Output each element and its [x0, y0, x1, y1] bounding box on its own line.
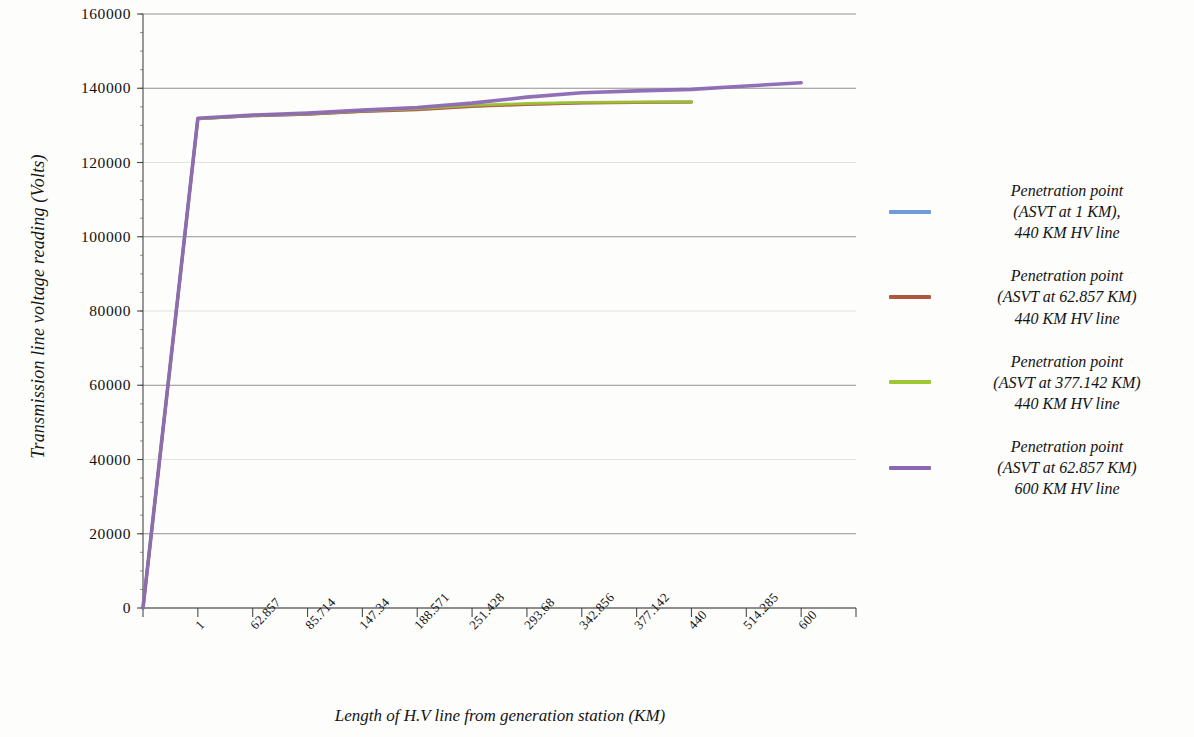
legend-label-line: Penetration point: [940, 180, 1194, 201]
legend-item[interactable]: Penetration point(ASVT at 1 KM),440 KM H…: [880, 180, 1194, 243]
legend-label-line: (ASVT at 1 KM),: [940, 201, 1194, 222]
y-tick-label: 80000: [41, 302, 131, 320]
y-tick-label: 120000: [41, 154, 131, 172]
legend-color-swatch: [889, 295, 931, 299]
series-line-2: [143, 102, 691, 608]
y-tick-label: 0: [41, 599, 131, 617]
series-line-3: [143, 83, 801, 608]
chart-page: Transmission line voltage reading (Volts…: [0, 0, 1194, 737]
legend-label: Penetration point(ASVT at 62.857 KM)440 …: [940, 265, 1194, 328]
y-tick-label: 20000: [41, 525, 131, 543]
legend-label-line: 600 KM HV line: [940, 478, 1194, 499]
legend-label-line: 440 KM HV line: [940, 222, 1194, 243]
legend-label: Penetration point(ASVT at 377.142 KM)440…: [940, 351, 1194, 414]
legend-item[interactable]: Penetration point(ASVT at 377.142 KM)440…: [880, 351, 1194, 414]
legend-label-line: (ASVT at 62.857 KM): [940, 286, 1194, 307]
legend-swatch-box: [880, 380, 940, 384]
legend-label-line: Penetration point: [940, 265, 1194, 286]
legend-swatch-box: [880, 295, 940, 299]
x-axis-title: Length of H.V line from generation stati…: [150, 706, 850, 726]
y-tick-label: 60000: [41, 376, 131, 394]
legend-label: Penetration point(ASVT at 1 KM),440 KM H…: [940, 180, 1194, 243]
legend-label-line: 440 KM HV line: [940, 393, 1194, 414]
y-tick-label: 140000: [41, 79, 131, 97]
series-line-1: [143, 102, 691, 608]
legend-swatch-box: [880, 210, 940, 214]
legend-swatch-box: [880, 466, 940, 470]
y-tick-label: 40000: [41, 451, 131, 469]
plot-area: 0200004000060000800001000001200001400001…: [0, 0, 900, 700]
legend-label: Penetration point(ASVT at 62.857 KM)600 …: [940, 436, 1194, 499]
legend-color-swatch: [889, 210, 931, 214]
legend-label-line: (ASVT at 377.142 KM): [940, 372, 1194, 393]
legend-label-line: Penetration point: [940, 351, 1194, 372]
y-tick-label: 160000: [41, 5, 131, 23]
legend-item[interactable]: Penetration point(ASVT at 62.857 KM)600 …: [880, 436, 1194, 499]
y-tick-label: 100000: [41, 228, 131, 246]
legend-color-swatch: [889, 380, 931, 384]
legend-color-swatch: [889, 466, 931, 470]
legend-label-line: (ASVT at 62.857 KM): [940, 457, 1194, 478]
chart-legend: Penetration point(ASVT at 1 KM),440 KM H…: [880, 180, 1194, 521]
legend-label-line: 440 KM HV line: [940, 308, 1194, 329]
legend-label-line: Penetration point: [940, 436, 1194, 457]
series-line-0: [143, 102, 691, 608]
legend-item[interactable]: Penetration point(ASVT at 62.857 KM)440 …: [880, 265, 1194, 328]
